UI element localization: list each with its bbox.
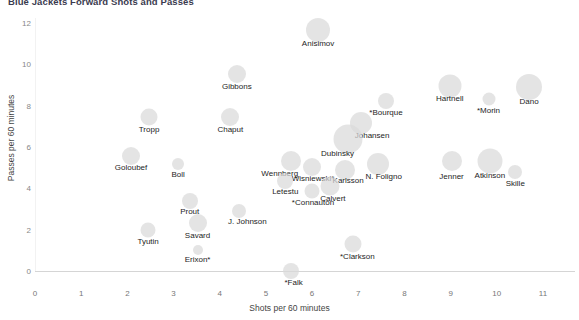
x-tick-label: 9 (448, 289, 452, 298)
x-tick-label: 1 (79, 289, 83, 298)
point-label: Erixon* (185, 255, 211, 264)
bubble-point[interactable] (320, 176, 339, 195)
point-label: Hartnell (436, 94, 464, 103)
point-label: Tyutin (137, 237, 158, 246)
point-label: *Clarkson (340, 252, 375, 261)
point-label: Tropp (139, 125, 160, 134)
bubble-point[interactable] (508, 165, 522, 179)
x-tick-label: 11 (539, 289, 547, 298)
point-label: Gibbons (222, 82, 252, 91)
bubble-point[interactable] (221, 108, 239, 126)
point-label: Savard (185, 231, 210, 240)
y-tick-label: 0 (27, 267, 31, 276)
point-label: *Bourque (369, 108, 402, 117)
point-label: *Connauton (292, 198, 334, 207)
y-axis-label: Passes per 60 minutes (6, 73, 16, 203)
bubble-point[interactable] (193, 245, 203, 255)
bubble-point[interactable] (305, 183, 320, 198)
point-label: Dubinsky (321, 149, 354, 158)
bubble-point[interactable] (482, 93, 495, 106)
y-tick-label: 2 (27, 225, 31, 234)
point-label: J. Johnson (228, 217, 267, 226)
bubble-point[interactable] (283, 263, 299, 279)
x-tick-label: 8 (402, 289, 406, 298)
bubble-point[interactable] (232, 204, 246, 218)
x-axis-label: Shots per 60 minutes (0, 303, 579, 313)
x-axis-line (35, 271, 575, 272)
y-tick-label: 4 (27, 184, 31, 193)
x-tick-label: 3 (171, 289, 175, 298)
point-label: Atkinson (475, 171, 506, 180)
bubble-point[interactable] (442, 151, 462, 171)
bubble-point[interactable] (189, 214, 207, 232)
point-label: Skille (506, 179, 525, 188)
chart-title: Blue Jackets Forward Shots and Passes (8, 0, 194, 7)
y-tick-label: 12 (22, 19, 31, 28)
bubble-point[interactable] (378, 93, 394, 109)
point-label: N. Foligno (365, 172, 401, 181)
y-tick-label: 8 (27, 101, 31, 110)
x-tick-label: 7 (356, 289, 360, 298)
x-axis-ticks: 01234567891011 (0, 289, 579, 303)
x-tick-label: 5 (264, 289, 268, 298)
bubble-point[interactable] (141, 222, 156, 237)
bubble-point[interactable] (172, 158, 184, 170)
x-tick-label: 0 (33, 289, 37, 298)
bubble-point[interactable] (228, 65, 246, 83)
point-label: Chaput (217, 125, 243, 134)
x-tick-label: 2 (125, 289, 129, 298)
y-tick-label: 10 (22, 60, 31, 69)
plot-area (35, 18, 543, 271)
bubble-chart: Blue Jackets Forward Shots and Passes 02… (0, 0, 579, 320)
x-tick-label: 4 (217, 289, 221, 298)
x-tick-label: 6 (310, 289, 314, 298)
bubble-point[interactable] (303, 158, 321, 176)
point-label: Anisimov (302, 39, 334, 48)
point-label: Jenner (439, 172, 463, 181)
point-label: Goloubef (115, 163, 147, 172)
bubble-point[interactable] (141, 109, 158, 126)
point-label: *Morin (477, 106, 500, 115)
x-tick-label: 10 (492, 289, 501, 298)
point-label: *Falk (284, 278, 302, 287)
point-label: Letestu (272, 187, 298, 196)
bubble-point[interactable] (182, 193, 198, 209)
bubble-point[interactable] (344, 236, 361, 253)
point-label: Dano (520, 97, 539, 106)
point-label: Boll (171, 170, 184, 179)
y-tick-label: 6 (27, 143, 31, 152)
